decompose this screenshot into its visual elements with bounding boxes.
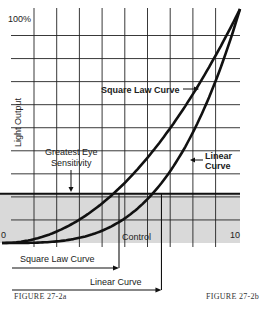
linear-annotation-line2: Curve bbox=[205, 161, 231, 171]
eye-sensitivity-label-line2: Sensitivity bbox=[51, 158, 92, 168]
y-tick-100: 100% bbox=[8, 14, 31, 24]
eye-sensitivity-label-line1: Greatest Eye bbox=[45, 147, 98, 157]
control-arrow-head bbox=[113, 266, 119, 271]
square-law-annotation: Square Law Curve bbox=[101, 85, 180, 95]
arrow-linear-label: Linear Curve bbox=[90, 277, 142, 287]
figure-caption-b: FIGURE 27-2b bbox=[206, 292, 259, 301]
arrow-square-law-label: Square Law Curve bbox=[20, 254, 95, 264]
figure-caption-a: FIGURE 27-2a bbox=[14, 292, 67, 301]
control-arrow-head bbox=[155, 288, 161, 293]
linear-annotation-line1: Linear bbox=[205, 151, 233, 161]
eye-sensitivity-band bbox=[0, 194, 240, 243]
x-axis-label: Control bbox=[122, 232, 151, 242]
x-tick-0: 0 bbox=[1, 230, 6, 240]
eye-sensitivity-pointer-head bbox=[69, 187, 74, 192]
x-tick-10: 10 bbox=[230, 230, 240, 240]
y-axis-label: Light Output bbox=[13, 97, 23, 147]
chart-figure: 100% Light Output 0 10 Control Square La… bbox=[0, 0, 262, 314]
